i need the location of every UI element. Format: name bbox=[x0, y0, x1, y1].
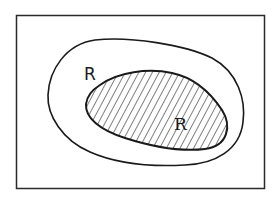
venn-diagram: R R bbox=[0, 0, 280, 199]
outer-region-label: R bbox=[84, 64, 96, 84]
inner-region-label: R bbox=[174, 114, 188, 134]
inner-region bbox=[86, 71, 227, 150]
